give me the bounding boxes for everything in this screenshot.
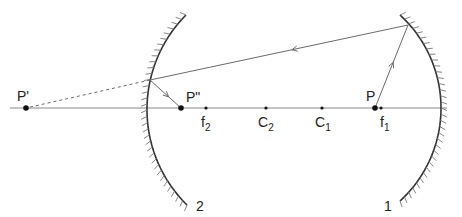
virtual-ray-to-P1 [26, 80, 150, 108]
ray-line [150, 80, 181, 108]
hatch-mark [141, 104, 147, 106]
hatch-mark [180, 201, 183, 207]
ray-line [150, 25, 408, 80]
label-P-double-prime: P" [186, 89, 200, 105]
hatch-mark [171, 191, 174, 197]
label-subscript: 1 [384, 122, 390, 133]
hatch-mark [416, 32, 422, 34]
hatch-mark [160, 38, 166, 39]
hatch-mark [164, 181, 168, 186]
hatch-mark [420, 178, 424, 183]
hatch-mark [147, 147, 152, 151]
label-f2: f2 [201, 114, 211, 133]
label-C2: C2 [258, 114, 274, 133]
hatch-mark [180, 13, 186, 15]
hatch-mark [437, 138, 442, 142]
light-rays [26, 25, 408, 108]
point-P-double-prime [178, 105, 184, 111]
virtual-ray-line [26, 80, 150, 108]
label-subscript: 2 [205, 122, 211, 133]
label-subscript: 2 [268, 122, 274, 133]
hatch-mark [164, 33, 170, 34]
hatch-mark [413, 27, 419, 29]
hatch-mark [168, 27, 174, 29]
hatch-mark [141, 110, 147, 113]
hatch-mark [143, 129, 149, 132]
label-C1: C1 [315, 114, 331, 133]
hatch-mark [413, 188, 416, 194]
hatch-mark [436, 144, 441, 148]
hatch-mark [434, 150, 439, 154]
hatch-mark [429, 162, 433, 167]
hatch-mark [423, 43, 429, 44]
hatch-mark [439, 132, 444, 136]
hatch-mark [404, 17, 410, 19]
hatch-mark [426, 167, 430, 172]
hatch-mark [400, 201, 402, 207]
mirror-1 [400, 12, 447, 207]
hatch-mark [176, 17, 182, 19]
hatch-mark [168, 186, 171, 191]
label-P: P [366, 88, 375, 104]
hatch-mark [420, 37, 426, 38]
hatch-mark [409, 22, 415, 24]
hatch-mark [141, 116, 147, 119]
point-C2 [264, 106, 267, 109]
hatch-mark [142, 123, 148, 126]
point-P-prime [23, 105, 29, 111]
ray-line [375, 25, 408, 108]
point-P [372, 105, 378, 111]
point-f1 [379, 106, 382, 109]
hatch-mark [176, 196, 179, 202]
hatch-mark [400, 12, 406, 15]
hatch-mark [440, 126, 446, 129]
label-P-prime: P' [17, 88, 29, 104]
label-f1: f1 [380, 114, 390, 133]
hatch-mark [149, 153, 154, 157]
hatch-mark [432, 156, 437, 161]
hatch-mark [416, 183, 419, 189]
hatch-mark [160, 176, 164, 181]
hatch-mark [171, 22, 177, 24]
hatch-mark [154, 164, 158, 169]
hatch-mark [185, 205, 187, 211]
hatch-mark [144, 135, 149, 139]
hatch-mark [404, 197, 407, 203]
hatch-mark [426, 48, 432, 49]
hatch-mark [441, 102, 447, 104]
hatch-mark [157, 44, 163, 45]
label-subscript: 1 [325, 122, 331, 133]
labels: P'P"f2C2C1Pf121 [17, 88, 392, 214]
point-f2 [204, 106, 207, 109]
mirror-2 [141, 13, 187, 211]
mirror-diagram: P'P"f2C2C1Pf121 [0, 0, 462, 217]
ray-mirror2-to-P2 [150, 80, 181, 108]
hatch-mark [423, 172, 427, 177]
hatch-mark [440, 120, 446, 123]
hatch-mark [152, 159, 157, 164]
hatch-mark [145, 141, 150, 145]
ray-mirror1-to-mirror2 [150, 25, 408, 80]
ray-P-to-mirror1 [375, 25, 408, 108]
point-C1 [320, 106, 323, 109]
label-mirror-1: 1 [384, 198, 392, 214]
hatch-mark [441, 114, 447, 117]
hatch-mark [409, 192, 412, 198]
hatch-mark [157, 170, 161, 175]
label-mirror-2: 2 [196, 198, 204, 214]
